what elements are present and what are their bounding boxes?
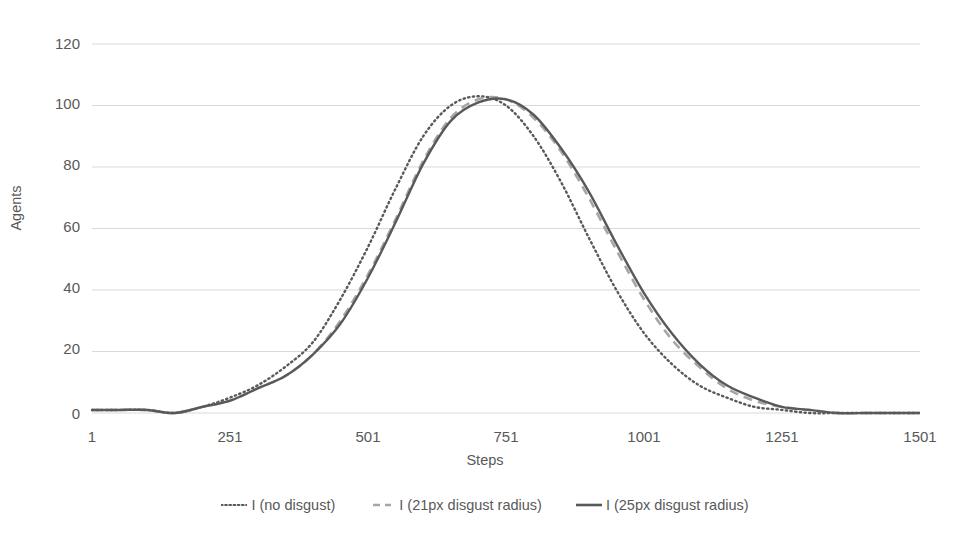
legend-line-dotted-icon	[221, 499, 247, 511]
series-lines	[92, 96, 920, 413]
x-axis-title: Steps	[0, 452, 970, 468]
x-tick-label: 751	[461, 428, 551, 445]
x-tick-label: 501	[323, 428, 413, 445]
legend-label: I (25px disgust radius)	[606, 497, 749, 513]
chart-container: 120 100 80 60 40 20 0 Agents 1 251 501 7…	[0, 0, 970, 548]
series-line-0	[92, 96, 920, 413]
legend-label: I (no disgust)	[251, 497, 335, 513]
legend-label: I (21px disgust radius)	[399, 497, 542, 513]
legend-item[interactable]: I (25px disgust radius)	[576, 497, 749, 513]
legend-item[interactable]: I (21px disgust radius)	[369, 497, 542, 513]
x-tick-label: 1251	[737, 428, 827, 445]
x-tick-label: 1501	[875, 428, 965, 445]
legend-line-solid-icon	[576, 499, 602, 511]
legend-line-dashed-icon	[369, 499, 395, 511]
x-tick-label: 1001	[599, 428, 689, 445]
chart-legend: I (no disgust) I (21px disgust radius) I…	[0, 497, 970, 513]
series-line-1	[92, 97, 920, 413]
x-tick-label: 1	[47, 428, 137, 445]
legend-item[interactable]: I (no disgust)	[221, 497, 335, 513]
series-line-2	[92, 98, 920, 413]
x-tick-label: 251	[185, 428, 275, 445]
